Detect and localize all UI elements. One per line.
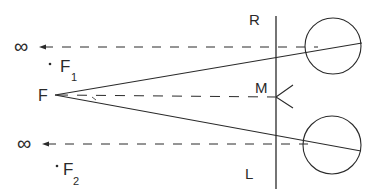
M-label: M [255, 79, 268, 96]
F2-label: F [63, 160, 73, 179]
small-tick-near-F [92, 97, 96, 100]
F1-label: F [60, 57, 70, 76]
optics-diagram: ∞ ∞ F 1 F F 2 R M L [0, 0, 376, 195]
F2-point [56, 165, 59, 168]
F-label: F [38, 87, 48, 104]
dashed-line-F-to-M [58, 95, 275, 97]
F1-subscript: 1 [71, 71, 77, 83]
arrow-left-icon-top [39, 45, 46, 50]
R-label: R [249, 11, 260, 28]
arrow-left-icon-bottom [42, 142, 49, 147]
infinity-label-top: ∞ [14, 35, 28, 57]
F1-point [49, 63, 52, 66]
infinity-label-bottom: ∞ [17, 132, 31, 154]
right-eye-circle [305, 18, 361, 74]
left-eye-circle [303, 116, 361, 174]
ray-F-to-right-eye [55, 43, 362, 95]
L-label: L [245, 165, 253, 182]
chevron-left-icon [276, 85, 293, 108]
ray-F-to-left-eye [55, 95, 361, 151]
F2-subscript: 2 [73, 175, 79, 187]
